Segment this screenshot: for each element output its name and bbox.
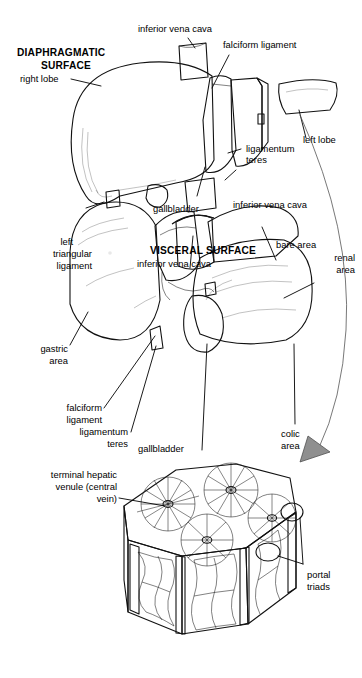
label-bare-area: bare area	[276, 239, 317, 250]
label-terminal-hepatic: terminal hepatic	[51, 469, 117, 480]
label-vein: vein)	[97, 493, 117, 504]
label-left-lobe: left lobe	[303, 134, 336, 145]
label-teres-visceral: teres	[107, 438, 128, 449]
label-area-colic: area	[281, 440, 301, 451]
label-right-lobe: right lobe	[20, 73, 59, 84]
label-inferior-vena-cava-bottom: inferior vena cava	[233, 199, 308, 210]
heading-diaphragmatic-line1: DIAPHRAGMATIC	[17, 47, 106, 58]
figure-canvas: DIAPHRAGMATIC SURFACE inferior vena cava…	[0, 0, 362, 678]
label-renal: renal	[334, 252, 355, 263]
label-area-gastric: area	[49, 355, 69, 366]
label-inferior-vena-cava-top: inferior vena cava	[138, 23, 213, 34]
label-portal: portal	[307, 569, 330, 580]
label-inferior-vena-cava-visceral: inferior vena cava	[137, 258, 212, 269]
label-ligamentum-visceral: ligamentum	[80, 426, 129, 437]
label-left: left	[60, 236, 73, 247]
label-falciform-visceral: falciform	[67, 402, 103, 413]
heading-diaphragmatic-line2: SURFACE	[41, 60, 91, 71]
label-gallbladder-visceral: gallbladder	[138, 443, 184, 454]
label-ligament-triangular: ligament	[57, 260, 93, 271]
label-area-renal: area	[336, 264, 356, 275]
label-teres-top: teres	[246, 154, 267, 165]
label-ligament-visceral: ligament	[67, 414, 103, 425]
liver-anatomy-figure: DIAPHRAGMATIC SURFACE inferior vena cava…	[0, 0, 362, 678]
label-venule-central: venule (central	[56, 481, 118, 492]
heading-visceral-surface: VISCERAL SURFACE	[150, 245, 256, 256]
label-triads: triads	[307, 581, 330, 592]
label-colic: colic	[281, 428, 300, 439]
label-gastric: gastric	[40, 343, 68, 354]
label-triangular: triangular	[53, 248, 92, 259]
label-ligamentum-top: ligamentum	[246, 143, 295, 154]
lobule-rosette	[181, 514, 233, 566]
label-falciform-ligament-top: falciform ligament	[223, 39, 297, 50]
